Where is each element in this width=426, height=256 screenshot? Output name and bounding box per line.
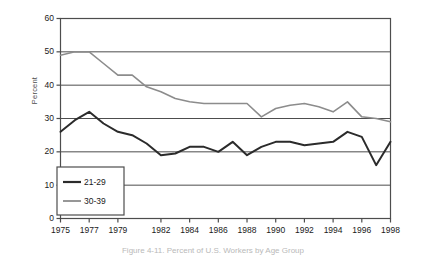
y-tick-label-60: 60 [24,14,54,23]
figure-caption: Figure 4-11. Percent of U.S. Workers by … [0,246,426,256]
x-tick-label-1998: 1998 [371,226,411,235]
y-tick-label-0: 0 [24,214,54,223]
y-tick-label-30: 30 [24,114,54,123]
legend-label-30-39: 30-39 [84,196,106,206]
line-chart-plot: 21-2930-39 [0,0,426,256]
y-tick-label-20: 20 [24,147,54,156]
y-axis-label: Percent [30,61,39,121]
chart-figure: Percent 21-2930-39 0102030405060 1975197… [0,0,426,256]
legend-box [57,167,124,215]
legend-label-21-29: 21-29 [84,177,106,187]
x-tick-label-1979: 1979 [98,226,138,235]
y-tick-label-50: 50 [24,47,54,56]
y-tick-label-10: 10 [24,181,54,190]
y-tick-label-40: 40 [24,81,54,90]
